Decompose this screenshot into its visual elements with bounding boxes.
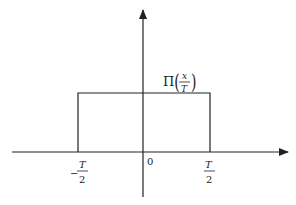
svg-text:T: T [79,159,87,170]
tick-zero: 0 [147,156,153,167]
svg-text:2: 2 [79,174,85,185]
tick-pos-half-T: T 2 [204,159,215,185]
svg-text:2: 2 [206,174,212,185]
svg-text:T: T [181,84,188,94]
svg-text:(: ( [174,70,179,93]
svg-text:x: x [182,71,187,81]
svg-text:Π: Π [163,74,174,89]
rect-function-diagram: Π ( x T ) − T 2 0 T 2 [0,0,296,205]
svg-text:−: − [70,168,78,179]
rect-pulse [78,93,210,152]
tick-neg-half-T: − T 2 [70,159,88,185]
svg-text:): ) [191,70,196,93]
function-label: Π ( x T ) [163,70,197,94]
svg-text:T: T [205,159,213,170]
